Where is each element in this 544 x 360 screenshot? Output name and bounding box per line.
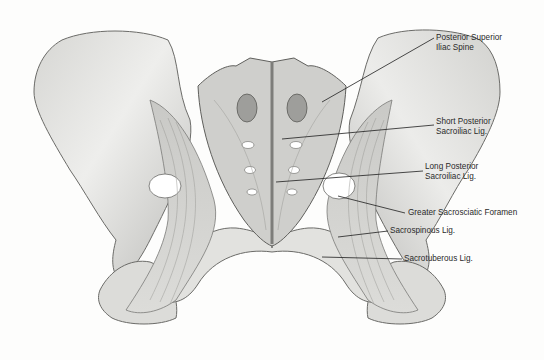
label-greater-sacrosciatic-foramen: Greater Sacrosciatic Foramen (408, 208, 517, 218)
label-short-posterior-sacroiliac-lig: Short Posterior Sacroiliac Lig. (436, 117, 491, 137)
label-line: Sacroiliac Lig. (436, 127, 491, 137)
label-line: Posterior Superior (436, 33, 502, 43)
pelvis-figure: Posterior Superior Iliac Spine Short Pos… (0, 0, 544, 360)
label-line: Sacrotuberous Lig. (404, 254, 473, 264)
label-sacrospinous-lig: Sacrospinous Lig. (390, 226, 455, 236)
label-line: Sacrospinous Lig. (390, 226, 455, 236)
label-line: Greater Sacrosciatic Foramen (408, 208, 517, 218)
label-line: Short Posterior (436, 117, 491, 127)
label-line: Long Posterior (425, 162, 478, 172)
label-line: Iliac Spine (436, 43, 502, 53)
label-line: Sacroiliac Lig. (425, 172, 478, 182)
label-sacrotuberous-lig: Sacrotuberous Lig. (404, 254, 473, 264)
label-long-posterior-sacroiliac-lig: Long Posterior Sacroiliac Lig. (425, 162, 478, 182)
label-posterior-superior-iliac-spine: Posterior Superior Iliac Spine (436, 33, 502, 53)
